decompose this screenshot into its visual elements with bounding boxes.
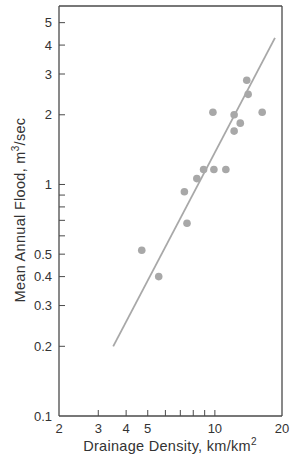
data-point [138,246,146,254]
data-point [243,76,251,84]
y-tick-label: 0.3 [34,298,52,313]
y-tick-label: 4 [45,38,52,53]
y-tick-label: 1 [45,177,52,192]
y-tick-label: 0.5 [34,247,52,262]
x-tick-label: 4 [123,421,130,436]
x-axis-ticks: 23451020 [55,410,289,436]
data-point [200,166,208,174]
x-tick-label: 5 [144,421,151,436]
y-axis-title-text: Mean Annual Flood, m [12,151,28,302]
x-tick-label: 3 [95,421,102,436]
x-tick-label: 10 [208,421,222,436]
data-point [244,91,252,99]
data-point [258,108,266,116]
data-point [230,127,238,135]
data-point [230,111,238,119]
data-point [155,273,163,281]
data-point [209,108,217,116]
y-tick-label: 0.4 [34,269,52,284]
y-axis-title-suffix: /sec [12,118,28,146]
data-point [193,175,201,183]
plot-frame [59,6,282,416]
y-tick-label: 2 [45,107,52,122]
data-series [113,38,275,346]
data-point [181,188,189,196]
y-axis-ticks: 0.10.20.30.40.512345 [34,15,65,423]
y-axis-title: Mean Annual Flood, m3/sec [10,118,28,303]
y-tick-label: 5 [45,15,52,30]
data-point [236,119,244,127]
y-tick-label: 0.2 [34,339,52,354]
regression-line [113,38,275,346]
x-tick-label: 2 [55,421,62,436]
x-axis-title-superscript: 2 [251,436,257,447]
chart: 23451020 0.10.20.30.40.512345 Drainage D… [0,0,296,460]
data-point [183,219,191,227]
data-point [210,166,218,174]
x-axis-title-text: Drainage Density, km/km [83,438,251,454]
x-axis-title: Drainage Density, km/km2 [83,436,257,454]
x-tick-label: 20 [275,421,289,436]
y-tick-label: 3 [45,67,52,82]
data-point [222,166,230,174]
y-tick-label: 0.1 [34,409,52,424]
